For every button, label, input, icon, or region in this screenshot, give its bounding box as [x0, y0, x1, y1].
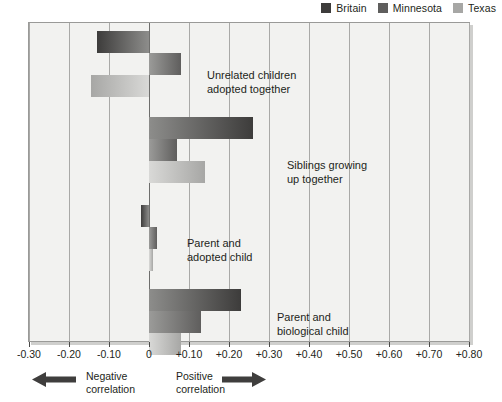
bar-texas-group-2: [149, 161, 205, 183]
tick-mark: [429, 342, 430, 347]
tick-mark: [109, 342, 110, 347]
tick-label: 0: [146, 348, 152, 360]
group-label-4: Parent and biological child: [277, 311, 349, 338]
bar-britain-group-1: [97, 31, 149, 53]
tick-label: +0.70: [416, 348, 443, 360]
legend-label-texas: Texas: [468, 3, 496, 14]
positive-arrow-icon: [222, 372, 266, 387]
gridline: [109, 23, 110, 341]
bar-britain-group-4: [149, 289, 241, 311]
tick-label: +0.50: [336, 348, 363, 360]
bar-minnesota-group-1: [149, 53, 181, 75]
tick-mark: [189, 342, 190, 347]
gridline: [69, 23, 70, 341]
gridline: [469, 23, 470, 341]
legend-swatch-britain: [321, 3, 331, 13]
bar-britain-group-2: [149, 117, 253, 139]
legend-label-britain: Britain: [336, 3, 366, 14]
bar-minnesota-group-2: [149, 139, 177, 161]
plot-area: Unrelated children adopted togetherSibli…: [28, 22, 470, 342]
tick-mark: [469, 342, 470, 347]
tick-label: -0.20: [57, 348, 81, 360]
tick-mark: [69, 342, 70, 347]
legend-item-texas: Texas: [453, 3, 496, 14]
legend-swatch-texas: [453, 3, 463, 13]
negative-arrow-icon: [32, 372, 76, 387]
tick-label: -0.30: [17, 348, 41, 360]
tick-mark: [149, 342, 150, 347]
tick-label: +0.30: [256, 348, 283, 360]
tick-mark: [269, 342, 270, 347]
tick-mark: [349, 342, 350, 347]
tick-mark: [389, 342, 390, 347]
bar-texas-group-3: [149, 249, 153, 271]
tick-mark: [29, 342, 30, 347]
gridline: [29, 23, 30, 341]
chart-root: Britain Minnesota Texas Unrelated childr…: [0, 0, 502, 402]
bar-britain-group-3: [141, 205, 149, 227]
group-label-3: Parent and adopted child: [187, 237, 252, 264]
bar-minnesota-group-4: [149, 311, 201, 333]
tick-label: +0.20: [216, 348, 243, 360]
tick-label: -0.10: [97, 348, 121, 360]
tick-label: +0.10: [176, 348, 203, 360]
tick-label: +0.40: [296, 348, 323, 360]
gridline: [389, 23, 390, 341]
positive-correlation-note: Positive correlation: [176, 370, 225, 395]
bar-minnesota-group-3: [149, 227, 157, 249]
legend-item-minnesota: Minnesota: [378, 3, 442, 14]
legend-item-britain: Britain: [321, 3, 366, 14]
tick-mark: [229, 342, 230, 347]
tick-mark: [309, 342, 310, 347]
bar-texas-group-1: [91, 75, 149, 97]
group-label-1: Unrelated children adopted together: [207, 69, 296, 96]
tick-label: +0.60: [376, 348, 403, 360]
gridline: [429, 23, 430, 341]
negative-correlation-note: Negative correlation: [86, 370, 135, 395]
group-label-2: Siblings growing up together: [287, 159, 367, 186]
chart-legend: Britain Minnesota Texas: [0, 3, 496, 14]
legend-swatch-minnesota: [378, 3, 388, 13]
legend-label-minnesota: Minnesota: [393, 3, 442, 14]
tick-label: +0.80: [456, 348, 483, 360]
